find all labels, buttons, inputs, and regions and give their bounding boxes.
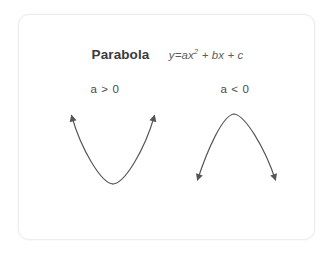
downward-parabola-right-branch [234, 114, 276, 180]
parabola-equation: y=ax2 + bx + c [169, 49, 244, 61]
equation-prefix: y=ax [169, 49, 194, 61]
upward-parabola-left-branch [72, 116, 114, 185]
downward-parabola-left-branch [198, 114, 235, 180]
parabola-info-card: Parabola y=ax2 + bx + c a > 0 a < 0 [18, 14, 315, 240]
equation-suffix: + bx + c [198, 49, 243, 61]
condition-label-a-less-than-zero: a < 0 [175, 83, 295, 95]
heading-row: Parabola y=ax2 + bx + c [19, 45, 316, 63]
page-title: Parabola [92, 47, 150, 62]
condition-label-a-greater-than-zero: a > 0 [45, 83, 165, 95]
upward-parabola-right-branch [113, 116, 155, 185]
screenshot-canvas: Parabola y=ax2 + bx + c a > 0 a < 0 [0, 0, 333, 255]
